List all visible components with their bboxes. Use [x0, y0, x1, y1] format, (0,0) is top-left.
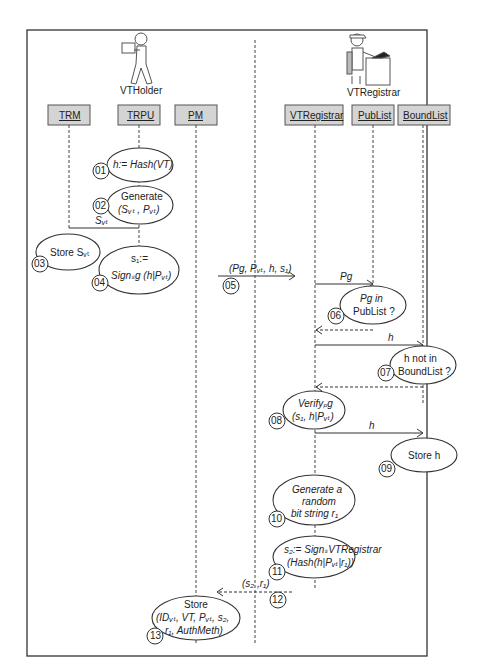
- svg-text:07: 07: [380, 367, 392, 378]
- svg-text:(IDᵥₜ, VT, Pᵥₜ, s₂,: (IDᵥₜ, VT, Pᵥₜ, s₂,: [156, 612, 229, 623]
- svg-text:Store h: Store h: [408, 450, 440, 461]
- svg-text:TRM: TRM: [59, 110, 81, 121]
- svg-text:VTRegistrar: VTRegistrar: [290, 110, 344, 121]
- message-h-store: h: [369, 420, 375, 431]
- svg-text:(Sᵥₜ , Pᵥₜ): (Sᵥₜ , Pᵥₜ): [118, 204, 159, 215]
- svg-text:Generate: Generate: [121, 191, 163, 202]
- svg-text:11: 11: [272, 566, 283, 577]
- person-at-desk-icon: [347, 34, 390, 85]
- person-carrying-icon: [122, 33, 152, 84]
- step-07: h not in BoundList ? 07: [378, 346, 456, 384]
- svg-text:04: 04: [94, 277, 106, 288]
- svg-text:s₂:= SignₛVTRegistrar: s₂:= SignₛVTRegistrar: [284, 544, 382, 555]
- lifeline-vtregistrar[interactable]: VTRegistrar: [285, 105, 344, 125]
- svg-text:02: 02: [95, 200, 107, 211]
- svg-text:05: 05: [225, 280, 237, 291]
- svg-text:h:= Hash(VT): h:= Hash(VT): [113, 159, 173, 170]
- svg-text:(Hash(h|Pᵥₜ|r₁)): (Hash(h|Pᵥₜ|r₁)): [287, 557, 354, 568]
- svg-text:08: 08: [271, 415, 283, 426]
- lifeline-boundlist[interactable]: BoundList: [398, 105, 450, 125]
- svg-text:03: 03: [34, 258, 46, 269]
- lifeline-publist[interactable]: PubList: [352, 105, 394, 125]
- message-pg: Pg: [340, 271, 353, 282]
- svg-text:random: random: [302, 496, 336, 507]
- svg-text:(s₁, h|Pᵥₜ): (s₁, h|Pᵥₜ): [292, 411, 334, 422]
- step-06: Pg in PubList ? 06: [328, 286, 406, 324]
- svg-text:(Pg, Pᵥₜ, h, s₁): (Pg, Pᵥₜ, h, s₁): [229, 263, 292, 274]
- svg-text:(s₂ ,r₁): (s₂ ,r₁): [242, 578, 270, 589]
- svg-text:TRPU: TRPU: [127, 110, 154, 121]
- svg-text:Generate a: Generate a: [292, 484, 342, 495]
- step-01: h:= Hash(VT) 01: [93, 148, 173, 182]
- step-08: Verifyₚg (s₁, h|Pᵥₜ) 08: [269, 391, 345, 429]
- svg-text:01: 01: [95, 165, 107, 176]
- svg-text:Verifyₚg: Verifyₚg: [298, 398, 333, 409]
- step-09: Store h 09: [379, 438, 457, 477]
- step-11: s₂:= SignₛVTRegistrar (Hash(h|Pᵥₜ|r₁)) 1…: [269, 536, 382, 580]
- lifeline-trm[interactable]: TRM: [48, 105, 90, 125]
- svg-text:12: 12: [272, 594, 284, 605]
- svg-text:bit string r₁: bit string r₁: [291, 508, 338, 519]
- lifeline-trpu[interactable]: TRPU: [118, 105, 160, 125]
- sequence-diagram: VTHolder VTRegistrar TRM TRPU PM VTRegis…: [0, 0, 489, 670]
- step-04: s₁:= Signₛg (h|Pᵥₜ) 04: [92, 246, 179, 294]
- svg-text:BoundList ?: BoundList ?: [398, 366, 451, 377]
- message-svt: Sᵥₜ: [95, 215, 109, 226]
- svg-text:13: 13: [150, 630, 162, 641]
- step-05: (Pg, Pᵥₜ, h, s₁) 05: [218, 263, 295, 294]
- actor-vtregistrar-label: VTRegistrar: [347, 87, 401, 98]
- svg-text:r₁, AuthMeth): r₁, AuthMeth): [165, 625, 223, 636]
- actor-vtholder-label: VTHolder: [120, 85, 163, 96]
- svg-text:Store Sᵥₜ: Store Sᵥₜ: [50, 247, 90, 258]
- svg-text:s₁:=: s₁:=: [131, 253, 148, 264]
- svg-text:PM: PM: [188, 110, 203, 121]
- step-03: Store Sᵥₜ 03: [32, 234, 100, 272]
- svg-text:Pg in: Pg in: [360, 293, 383, 304]
- svg-text:h not in: h not in: [404, 353, 437, 364]
- step-13: Store (IDᵥₜ, VT, Pᵥₜ, s₂, r₁, AuthMeth) …: [147, 596, 240, 644]
- lifeline-pm[interactable]: PM: [175, 105, 217, 125]
- svg-text:Signₛg (h|Pᵥₜ): Signₛg (h|Pᵥₜ): [111, 270, 171, 281]
- svg-text:06: 06: [330, 310, 342, 321]
- svg-text:BoundList: BoundList: [403, 110, 448, 121]
- message-h: h: [388, 332, 394, 343]
- svg-text:PubList: PubList: [358, 110, 392, 121]
- svg-text:PubList ?: PubList ?: [353, 306, 395, 317]
- svg-text:09: 09: [381, 463, 393, 474]
- svg-text:Store: Store: [184, 599, 208, 610]
- svg-text:10: 10: [271, 513, 283, 524]
- step-10: Generate a random bit string r₁ 10: [269, 475, 355, 527]
